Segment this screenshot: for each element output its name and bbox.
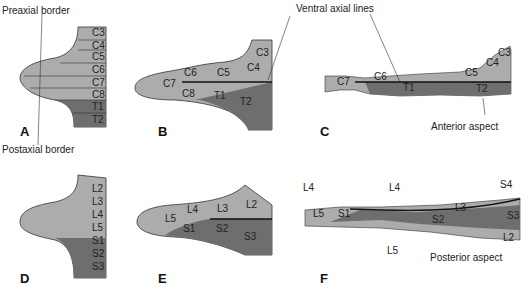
seg-b-c7: C7 — [163, 79, 176, 89]
panel-label-d: D — [20, 272, 29, 285]
seg-f-l4-foot: L4 — [303, 183, 314, 193]
seg-e-s3: S3 — [244, 232, 256, 242]
seg-e-l5: L5 — [165, 214, 176, 224]
preaxial-border-label: Preaxial border — [2, 6, 70, 16]
seg-d-l5: L5 — [92, 223, 103, 233]
seg-d-l4: L4 — [92, 210, 103, 220]
seg-d-s3: S3 — [92, 262, 104, 272]
seg-f-l4-leg: L4 — [389, 183, 400, 193]
seg-e-s2: S2 — [216, 224, 228, 234]
panel-label-b: B — [158, 125, 167, 138]
seg-c-c3: C3 — [498, 48, 511, 58]
seg-e-l3: L3 — [217, 204, 228, 214]
panel-label-c: C — [320, 125, 329, 138]
seg-f-s3: S3 — [507, 211, 519, 221]
seg-a-c7: C7 — [92, 78, 105, 88]
seg-c-t2: T2 — [476, 84, 488, 94]
seg-b-c5: C5 — [217, 68, 230, 78]
panel-e-limb-bud — [137, 185, 272, 255]
seg-f-l2: L2 — [503, 233, 514, 243]
seg-c-c7: C7 — [337, 77, 350, 87]
seg-b-t2: T2 — [240, 97, 252, 107]
seg-a-c5: C5 — [92, 52, 105, 62]
ventral-axial-lines-label: Ventral axial lines — [296, 4, 374, 14]
seg-a-c4: C4 — [92, 41, 105, 51]
posterior-aspect-label: Posterior aspect — [430, 253, 502, 263]
seg-d-l3: L3 — [92, 197, 103, 207]
seg-d-s2: S2 — [92, 249, 104, 259]
seg-d-s1: S1 — [92, 236, 104, 246]
seg-f-s2: S2 — [432, 215, 444, 225]
seg-c-t1: T1 — [403, 83, 415, 93]
seg-e-s1: S1 — [183, 224, 195, 234]
seg-b-t1: T1 — [214, 91, 226, 101]
seg-e-l4: L4 — [187, 205, 198, 215]
seg-a-t2: T2 — [92, 115, 104, 125]
seg-a-t1: T1 — [92, 102, 104, 112]
seg-e-l2: L2 — [246, 200, 257, 210]
seg-c-c6: C6 — [374, 72, 387, 82]
seg-f-l3: L3 — [455, 203, 466, 213]
panel-f-leg — [305, 198, 520, 240]
seg-b-c4: C4 — [247, 63, 260, 73]
panel-b-limb-bud — [135, 40, 272, 130]
seg-b-c6: C6 — [184, 68, 197, 78]
panel-c-arm — [268, 14, 511, 115]
seg-b-c3: C3 — [256, 48, 269, 58]
seg-d-l2: L2 — [92, 184, 103, 194]
seg-f-s4: S4 — [500, 180, 512, 190]
seg-a-c6: C6 — [92, 65, 105, 75]
seg-c-c4: C4 — [486, 58, 499, 68]
seg-b-c8: C8 — [182, 89, 195, 99]
seg-f-s1: S1 — [338, 209, 350, 219]
seg-a-c8: C8 — [92, 90, 105, 100]
seg-f-l5-leg: L5 — [387, 246, 398, 256]
seg-a-c3: C3 — [92, 28, 105, 38]
seg-f-l5-foot: L5 — [313, 209, 324, 219]
panel-label-f: F — [320, 272, 328, 285]
panel-label-a: A — [20, 125, 29, 138]
dermatome-diagram — [0, 0, 531, 290]
seg-c-c5: C5 — [465, 68, 478, 78]
anterior-aspect-label: Anterior aspect — [431, 122, 498, 132]
postaxial-border-label: Postaxial border — [2, 145, 74, 155]
panel-label-e: E — [158, 272, 167, 285]
